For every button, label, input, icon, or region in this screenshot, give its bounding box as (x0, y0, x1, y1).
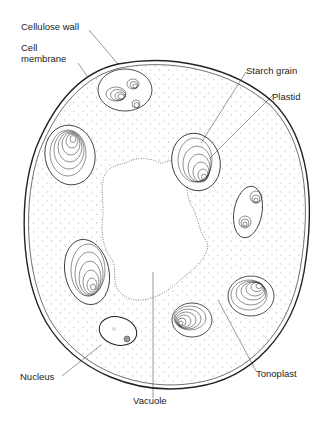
label-cell-membrane-line1: Cell (21, 42, 37, 53)
plastid-bottom (172, 303, 212, 337)
plastid-top (98, 69, 152, 111)
label-tonoplast: Tonoplast (256, 368, 297, 379)
label-starch-grain: Starch grain (246, 65, 297, 76)
label-cellulose-wall: Cellulose wall (21, 21, 79, 32)
label-plastid: Plastid (272, 91, 301, 102)
label-cell-membrane-line2: membrane (21, 53, 66, 64)
label-vacuole: Vacuole (133, 395, 167, 406)
label-nucleus: Nucleus (20, 371, 54, 382)
plastid-bottom-right (228, 276, 274, 316)
